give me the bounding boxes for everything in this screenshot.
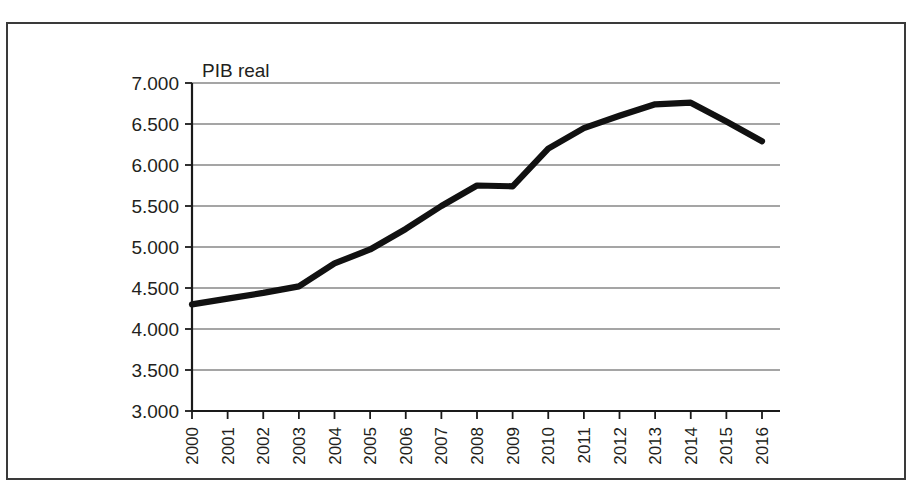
x-axis-tick-label: 2004 (326, 427, 345, 465)
x-axis-tick-label: 2002 (254, 427, 273, 465)
y-axis-tick-label: 4.500 (131, 278, 179, 299)
data-series-line (192, 103, 762, 305)
x-axis-tick-label: 2013 (646, 427, 665, 465)
line-chart: 3.0003.5004.0004.5005.0005.5006.0006.500… (0, 0, 914, 503)
x-axis-tick-label: 2000 (183, 427, 202, 465)
x-axis-tick-label: 2016 (753, 427, 772, 465)
x-axis-tick-label: 2012 (611, 427, 630, 465)
x-axis-tick-label: 2006 (397, 427, 416, 465)
x-axis-tick-label: 2003 (290, 427, 309, 465)
y-axis-tick-label: 6.500 (131, 114, 179, 135)
x-axis-tick-label: 2008 (468, 427, 487, 465)
y-axis-tick-label: 3.000 (131, 401, 179, 422)
y-axis-tick-label: 5.500 (131, 196, 179, 217)
x-axis-tick-label: 2011 (575, 427, 594, 464)
x-axis-tick-label: 2007 (432, 427, 451, 465)
x-axis-tick-label: 2009 (504, 427, 523, 465)
y-axis-tick-label: 4.000 (131, 319, 179, 340)
figure-page: 3.0003.5004.0004.5005.0005.5006.0006.500… (0, 0, 914, 503)
chart-plot-area: 3.0003.5004.0004.5005.0005.5006.0006.500… (0, 0, 914, 503)
series-label: PIB real (202, 60, 270, 81)
x-axis-tick-label: 2014 (682, 427, 701, 465)
x-axis-tick-label: 2015 (717, 427, 736, 465)
x-axis-tick-label: 2005 (361, 427, 380, 465)
y-axis-tick-label: 3.500 (131, 360, 179, 381)
x-axis-tick-label: 2010 (539, 427, 558, 465)
y-axis-tick-label: 5.000 (131, 237, 179, 258)
y-axis-tick-label: 6.000 (131, 155, 179, 176)
y-axis-tick-label: 7.000 (131, 73, 179, 94)
x-axis-tick-label: 2001 (219, 427, 238, 465)
